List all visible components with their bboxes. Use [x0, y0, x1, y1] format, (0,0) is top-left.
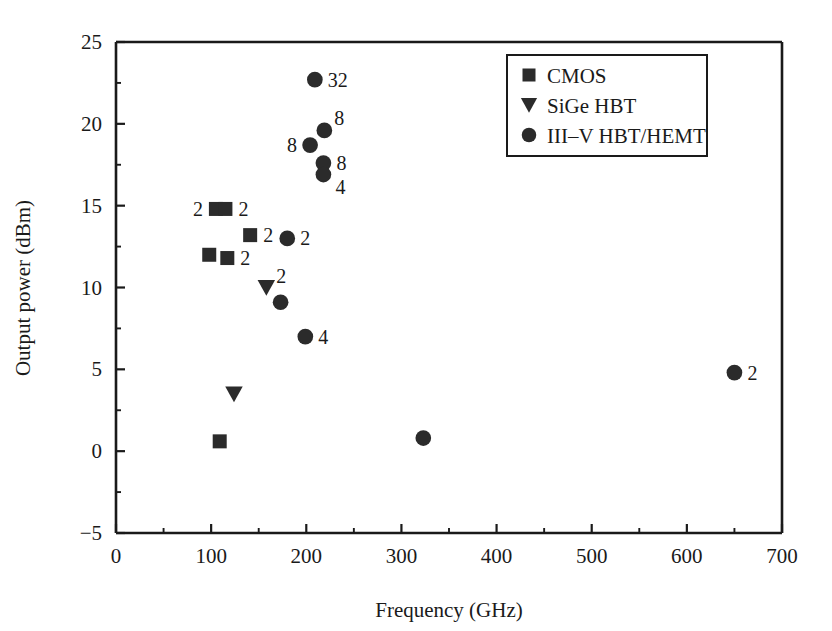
- data-point-circle: [415, 430, 431, 446]
- legend-label: III–V HBT/HEMT: [547, 124, 706, 148]
- point-annotation: 8: [334, 107, 344, 129]
- point-annotation: 2: [238, 198, 248, 220]
- point-annotation: 2: [747, 362, 757, 384]
- data-point-circle: [279, 231, 295, 247]
- y-tick-label: 25: [81, 30, 102, 54]
- x-tick-label: 300: [386, 544, 418, 568]
- point-annotation: 8: [287, 134, 297, 156]
- legend-marker-square: [523, 69, 536, 82]
- data-point-circle: [297, 329, 313, 345]
- legend-label: CMOS: [547, 64, 607, 88]
- y-tick-label: 5: [92, 357, 103, 381]
- legend-marker-circle: [522, 128, 537, 143]
- y-tick-label: −5: [80, 521, 102, 545]
- x-tick-label: 700: [766, 544, 798, 568]
- data-point-circle: [317, 123, 333, 139]
- data-point-square: [218, 202, 232, 216]
- data-point-square: [202, 248, 216, 262]
- x-tick-label: 500: [576, 544, 608, 568]
- point-annotation: 2: [276, 265, 286, 287]
- x-tick-label: 0: [111, 544, 122, 568]
- point-annotation: 8: [336, 152, 346, 174]
- chart-legend: CMOSSiGe HBTIII–V HBT/HEMT: [507, 55, 707, 156]
- data-point-square: [220, 251, 234, 265]
- point-annotation: 4: [318, 326, 328, 348]
- data-point-circle: [307, 72, 323, 88]
- legend-label: SiGe HBT: [547, 94, 636, 118]
- y-tick-label: 20: [81, 112, 102, 136]
- x-tick-label: 200: [291, 544, 323, 568]
- y-tick-label: 15: [81, 194, 102, 218]
- x-tick-label: 100: [195, 544, 227, 568]
- y-axis-title: Output power (dBm): [11, 200, 35, 376]
- y-tick-label: 0: [92, 439, 103, 463]
- data-point-circle: [727, 365, 743, 381]
- data-point-square: [243, 228, 257, 242]
- point-annotation: 4: [335, 176, 345, 198]
- data-point-circle: [273, 294, 289, 310]
- x-tick-label: 600: [671, 544, 703, 568]
- point-annotation: 2: [263, 224, 273, 246]
- scatter-chart-figure: 0100200300400500600700−50510152025 Frequ…: [0, 0, 832, 631]
- data-point-square: [213, 434, 227, 448]
- data-point-circle: [302, 137, 318, 153]
- point-annotation: 2: [240, 247, 250, 269]
- x-axis-title: Frequency (GHz): [375, 598, 523, 622]
- point-annotation: 32: [328, 69, 348, 91]
- chart-svg: 0100200300400500600700−50510152025 Frequ…: [0, 0, 832, 631]
- point-annotation: 2: [193, 198, 203, 220]
- y-tick-label: 10: [81, 276, 102, 300]
- point-annotation: 2: [300, 227, 310, 249]
- data-point-circle: [316, 167, 332, 183]
- x-tick-label: 400: [481, 544, 513, 568]
